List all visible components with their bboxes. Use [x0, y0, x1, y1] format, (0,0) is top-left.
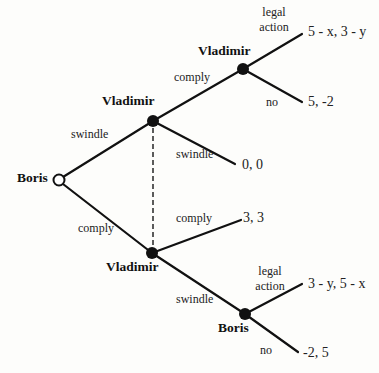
action-label-vbottom-swindle: swindle	[176, 293, 213, 306]
payoff-3: 0, 0	[242, 157, 263, 173]
action-label-vtop-swindle: swindle	[176, 148, 213, 161]
player-label-boris-bottom: Boris	[218, 320, 249, 336]
vladimir-bottom-node	[146, 247, 158, 259]
payoff-6: -2, 5	[303, 345, 329, 361]
player-label-boris-root: Boris	[17, 170, 48, 186]
action-label-bbottom-action: action	[254, 280, 286, 293]
action-label-bbottom-legal: legal	[254, 265, 286, 278]
action-label-root-swindle: swindle	[71, 128, 108, 141]
action-label-bbottom-no: no	[260, 344, 272, 357]
edge-boris-comply	[63, 184, 152, 253]
payoff-2: 5, -2	[308, 94, 334, 110]
action-label-vright-no: no	[266, 96, 278, 109]
action-label-root-comply: comply	[78, 222, 114, 235]
game-tree-edges	[0, 0, 379, 373]
root-node-open	[54, 175, 65, 186]
action-label-vright-legal: legal	[258, 6, 290, 19]
vladimir-right-node	[237, 63, 249, 75]
player-label-vladimir-top: Vladimir	[102, 93, 155, 109]
edge-vright-legal	[243, 34, 302, 69]
player-label-vladimir-right: Vladimir	[198, 43, 251, 59]
player-label-vladimir-bottom: Vladimir	[106, 259, 159, 275]
action-label-vbottom-comply: comply	[176, 212, 212, 225]
vladimir-top-node	[147, 115, 159, 127]
action-label-vright-action: action	[258, 21, 290, 34]
payoff-1: 5 - x, 3 - y	[308, 24, 366, 40]
boris-bottom-node	[239, 308, 251, 320]
payoff-4: 3, 3	[243, 210, 264, 226]
action-label-vtop-comply: comply	[174, 71, 210, 84]
payoff-5: 3 - y, 5 - x	[308, 276, 365, 292]
